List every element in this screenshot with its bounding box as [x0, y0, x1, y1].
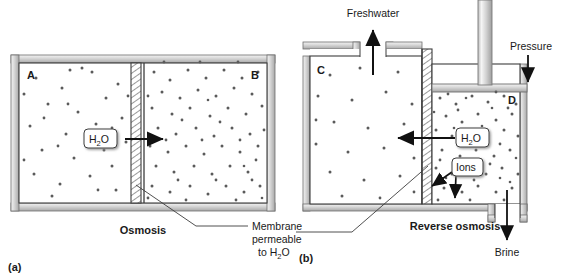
membrane-annotation-line2: permeable	[252, 233, 302, 245]
chamber-label-b: B	[251, 69, 259, 81]
chamber-label-a: A	[27, 69, 35, 81]
osmosis-reverse-osmosis-figure: A B H2O Osmosis (a) Membrane permeable t…	[0, 0, 564, 278]
membrane-annotation-line1: Membrane	[252, 220, 302, 232]
panel-label-a: (a)	[8, 261, 22, 273]
freshwater-label: Freshwater	[347, 7, 400, 19]
brine-label: Brine	[495, 246, 520, 258]
caption-reverse-osmosis: Reverse osmosis	[410, 220, 501, 232]
vessel-a-walls	[11, 55, 275, 211]
pressure-label: Pressure	[510, 40, 552, 52]
ions-arrow-2	[455, 175, 456, 198]
chamber-label-c: C	[317, 64, 325, 76]
ions-callout-text: Ions	[456, 161, 476, 173]
chamber-label-d: D	[508, 94, 516, 106]
figure-canvas: A B H2O Osmosis (a) Membrane permeable t…	[0, 0, 564, 278]
membrane-b	[422, 49, 432, 204]
panel-label-b: (b)	[299, 252, 313, 264]
caption-osmosis: Osmosis	[120, 224, 166, 236]
piston-rod	[478, 0, 492, 85]
